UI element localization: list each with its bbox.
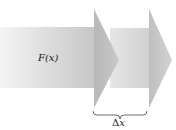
arrow-1 (0, 9, 119, 108)
arrow-2-head (149, 9, 172, 108)
work-diagram: F(x) Δx (0, 0, 176, 130)
arrow-2 (110, 9, 172, 108)
force-label: F(x) (38, 52, 58, 63)
arrow-1-head (94, 9, 119, 108)
delta-x-label: Δx (112, 117, 125, 128)
delta-x-var: x (119, 117, 125, 128)
arrows-svg (0, 0, 176, 130)
